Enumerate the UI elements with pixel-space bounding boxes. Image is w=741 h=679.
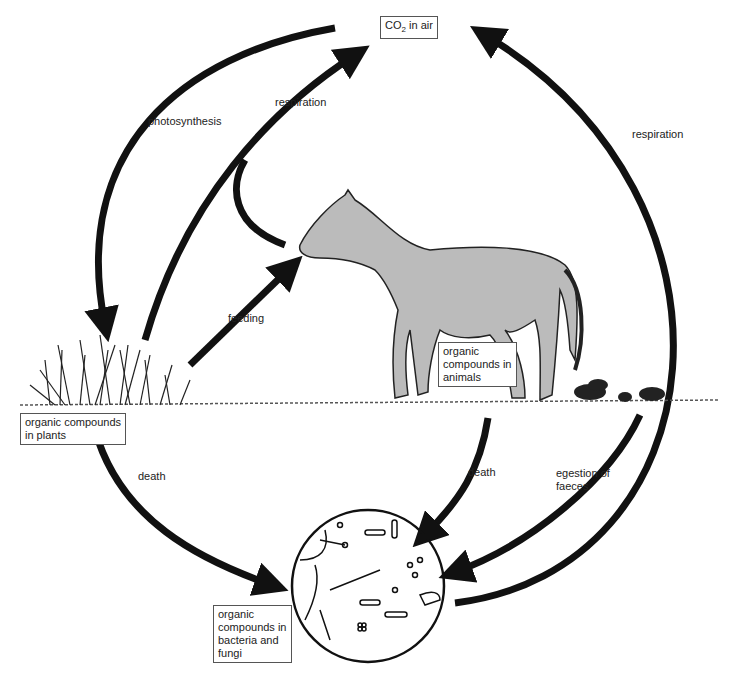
- label-respiration-plants: respiration: [275, 96, 326, 109]
- node-organic-compounds-in-animals: organic compounds in animals: [438, 342, 517, 387]
- label-death-plants: death: [138, 470, 166, 483]
- grass-illustration: [30, 335, 190, 405]
- microbe-illustration: [292, 510, 444, 662]
- label-respiration-decomposers: respiration: [632, 128, 683, 141]
- node-organic-compounds-in-decomposers: organic compounds in bacteria and fungi: [213, 605, 292, 663]
- node-co2-in-air: CO2 in air: [380, 16, 438, 39]
- node-organic-compounds-in-plants: organic compounds in plants: [20, 413, 126, 445]
- arrow-respiration-animals: [236, 160, 285, 245]
- label-photosynthesis: photosynthesis: [148, 115, 221, 128]
- faeces-illustration: [574, 379, 665, 402]
- label-egestion: egestion of faeces: [556, 467, 610, 493]
- label-death-animals: death: [468, 466, 496, 479]
- cycle-diagram: [0, 0, 741, 679]
- arrow-death-plants: [95, 430, 272, 585]
- label-feeding: feeding: [228, 312, 264, 325]
- arrow-photosynthesis: [98, 28, 335, 325]
